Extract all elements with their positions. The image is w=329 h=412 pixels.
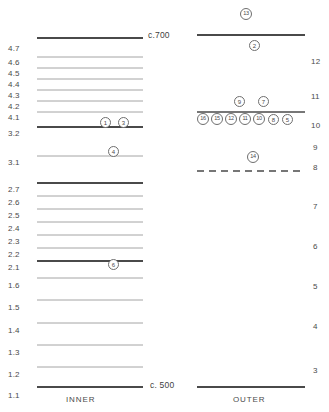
outer-marker: 15 [211, 113, 223, 125]
era-label-bottom: c. 500 [150, 380, 174, 390]
outer-phase-label: 11 [311, 93, 320, 101]
outer-phase-label: 10 [311, 122, 320, 130]
inner-phase-label: 2.4 [8, 225, 20, 233]
inner-phase-label: 4.1 [8, 114, 20, 122]
inner-phase-label: 4.2 [8, 103, 20, 111]
inner-phase-label: 4.4 [8, 81, 20, 89]
column-name-inner: INNER [66, 395, 95, 404]
outer-marker: 10 [253, 113, 265, 125]
outer-marker: 14 [247, 151, 259, 163]
inner-phase-label: 2.5 [8, 212, 20, 220]
inner-phase-label: 2.7 [8, 186, 20, 194]
inner-phase-label: 1.2 [8, 371, 20, 379]
outer-phase-label: 3 [313, 367, 318, 375]
outer-phase-label: 12 [311, 58, 320, 66]
outer-phase-label: 8 [313, 164, 318, 172]
era-label-top: c.700 [148, 30, 170, 40]
inner-phase-label: 2.2 [8, 251, 20, 259]
outer-marker: 7 [258, 96, 269, 107]
inner-column-rules [37, 38, 143, 387]
inner-marker: 6 [108, 259, 119, 270]
outer-phase-label: 6 [313, 243, 318, 251]
outer-marker: 11 [239, 113, 251, 125]
inner-phase-label: 3.2 [8, 130, 20, 138]
inner-phase-label: 3.1 [8, 159, 20, 167]
outer-marker: 16 [197, 113, 209, 125]
outer-marker: 12 [225, 113, 237, 125]
inner-phase-label: 1.6 [8, 282, 20, 290]
outer-marker: 5 [282, 114, 293, 125]
column-name-outer: OUTER [233, 395, 266, 404]
outer-column-rules [197, 35, 305, 387]
outer-marker: 2 [249, 40, 260, 51]
inner-phase-label: 2.3 [8, 238, 20, 246]
outer-phase-label: 5 [313, 283, 318, 291]
outer-marker: 8 [268, 114, 279, 125]
inner-marker: 4 [108, 146, 119, 157]
inner-phase-label: 1.5 [8, 304, 20, 312]
stratigraphic-phase-diagram [0, 0, 329, 412]
inner-phase-label: 2.6 [8, 199, 20, 207]
inner-phase-label: 1.3 [8, 349, 20, 357]
inner-marker: 3 [118, 117, 129, 128]
inner-phase-label: 4.5 [8, 70, 20, 78]
outer-phase-label: 9 [313, 144, 318, 152]
inner-phase-label: 1.4 [8, 327, 20, 335]
outer-marker: 9 [234, 96, 245, 107]
inner-phase-label: 4.7 [8, 45, 20, 53]
inner-phase-label: 4.6 [8, 59, 20, 67]
inner-marker: 1 [100, 117, 111, 128]
outer-marker: 13 [240, 8, 252, 20]
inner-phase-label: 2.1 [8, 264, 20, 272]
outer-phase-label: 4 [313, 323, 318, 331]
inner-phase-label: 4.3 [8, 92, 20, 100]
outer-phase-label: 7 [313, 203, 318, 211]
inner-phase-label: 1.1 [8, 392, 20, 400]
